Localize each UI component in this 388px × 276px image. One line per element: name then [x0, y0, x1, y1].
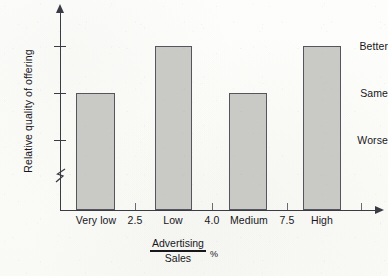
x-tick-2-5	[135, 203, 136, 210]
x-tick-label-medium: Medium	[230, 214, 268, 226]
bar-low	[155, 46, 192, 210]
y-axis-title: Relative quality of offering	[22, 21, 34, 201]
y-tick-label-better: Better	[336, 40, 388, 52]
x-tick-label-low: Low	[163, 214, 183, 226]
y-tick-better	[54, 46, 66, 47]
x-axis-arrow-icon	[375, 206, 384, 214]
x-axis-title-numerator: Advertising	[150, 238, 206, 250]
x-tick-4-0	[212, 203, 213, 210]
x-axis-title-denominator: Sales	[163, 252, 193, 264]
x-tick-label-very-low: Very low	[76, 214, 116, 226]
chart-canvas: Better Same Worse Relative quality of of…	[0, 0, 388, 276]
y-tick-label-same: Same	[336, 87, 388, 99]
bar-very-low	[76, 93, 115, 210]
x-axis-title: Advertising Sales %	[150, 238, 218, 264]
axis-break-icon	[54, 168, 68, 184]
y-tick-worse	[54, 140, 66, 141]
x-axis-line	[60, 210, 380, 211]
bar-medium	[229, 93, 267, 210]
x-tick-label-2-5: 2.5	[128, 214, 143, 226]
x-axis-title-unit: %	[210, 249, 218, 264]
x-tick-label-7-5: 7.5	[280, 214, 295, 226]
x-tick-7-5	[287, 203, 288, 210]
x-tick-label-high: High	[311, 214, 333, 226]
x-tick-label-4-0: 4.0	[205, 214, 220, 226]
bar-high	[303, 46, 341, 210]
x-tick-end	[361, 203, 362, 210]
y-tick-label-worse: Worse	[336, 134, 388, 146]
y-axis-arrow-icon	[56, 4, 64, 13]
y-tick-same	[54, 93, 66, 94]
x-axis-title-fraction: Advertising Sales	[150, 238, 206, 264]
